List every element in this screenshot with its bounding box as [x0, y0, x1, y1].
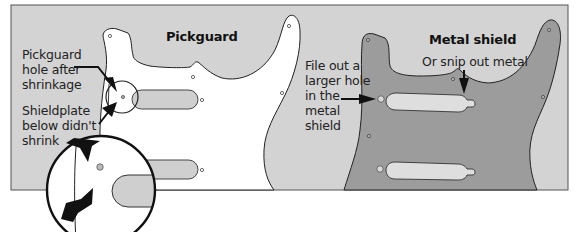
screw-hole: [367, 134, 370, 137]
shield-slot-bottom: [386, 162, 475, 180]
pickup-slot-top: [132, 90, 198, 109]
screw-hole: [366, 38, 369, 41]
metal-shield-title: Metal shield: [429, 32, 516, 47]
screw-hole: [200, 98, 203, 101]
shield-slot-top: [386, 93, 475, 112]
screw-hole: [200, 168, 203, 171]
screw-hole: [280, 91, 283, 94]
screw-hole: [287, 24, 290, 27]
screw-hole: [547, 28, 550, 31]
screw-hole: [451, 77, 454, 80]
callout-snip-out: Or snip out metal: [422, 54, 528, 69]
shield-hole: [377, 166, 383, 172]
pickguard-hole: [121, 95, 124, 98]
screw-hole: [108, 34, 111, 37]
pickguard-title: Pickguard: [166, 29, 238, 44]
screw-hole: [541, 95, 544, 98]
callout-pickguard-hole: Pickguard hole after shrinkage: [22, 47, 81, 92]
shieldplate-hole-zoomed: [97, 164, 103, 170]
screw-hole: [191, 75, 194, 78]
shield-hole: [378, 96, 384, 102]
callout-shieldplate: Shieldplate below didn't shrink: [22, 103, 96, 148]
callout-file-out: File out a larger hole in the metal shie…: [305, 58, 370, 133]
